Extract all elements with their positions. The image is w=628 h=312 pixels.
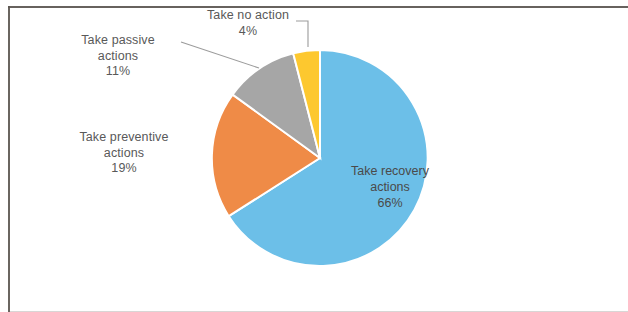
pie-label-take-no-action: Take no action 4%	[192, 8, 304, 39]
pie-label-take-preventive-actions: Take preventive actions 19%	[52, 130, 196, 177]
pie-label-take-passive-actions-line1: Take passive	[81, 33, 154, 47]
pie-label-take-recovery-actions: Take recovery actions 66%	[322, 163, 458, 211]
scanned-page: Take no action 4% Take passive actions 1…	[0, 0, 628, 312]
pie-chart: Take no action 4% Take passive actions 1…	[0, 0, 628, 312]
pie-label-take-preventive-actions-line1: Take preventive	[79, 130, 168, 144]
pie-label-take-no-action-line1: Take no action	[207, 8, 289, 22]
pie-label-take-passive-actions: Take passive actions 11%	[56, 33, 180, 80]
pie-label-take-recovery-actions-line2: actions	[370, 180, 410, 194]
pie-label-take-preventive-actions-line2: actions	[104, 146, 144, 160]
pie-label-take-passive-actions-line2: actions	[98, 49, 138, 63]
pie-label-take-recovery-actions-line1: Take recovery	[351, 164, 429, 178]
pie-label-take-preventive-actions-percent: 19%	[52, 161, 196, 177]
leader-line-take-passive-actions	[181, 42, 259, 68]
pie-label-take-no-action-percent: 4%	[192, 24, 304, 40]
pie-label-take-passive-actions-percent: 11%	[56, 64, 180, 80]
pie-label-take-recovery-actions-percent: 66%	[322, 195, 458, 211]
